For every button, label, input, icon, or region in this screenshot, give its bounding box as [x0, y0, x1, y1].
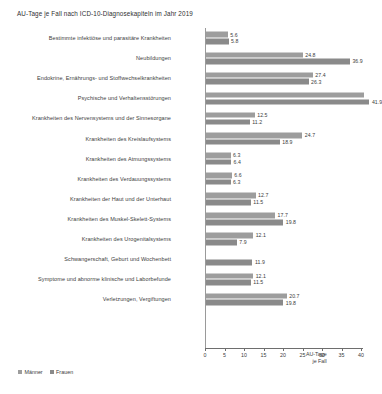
bar-frauen: 6.3 — [206, 179, 371, 185]
bar-group: 20.719.8 — [206, 292, 371, 307]
bar-value-label: 27.4 — [315, 71, 325, 77]
bar-rect — [206, 280, 251, 286]
bar-value-label: 12.1 — [256, 232, 266, 238]
category-label: Krankheiten des Muskel-Skelett-Systems — [68, 216, 171, 222]
bar-rect — [206, 193, 256, 199]
bar-group: 24.836.9 — [206, 51, 371, 66]
category-label: Krankheiten der Haut und der Unterhaut — [70, 196, 171, 202]
x-tick — [303, 348, 304, 351]
legend-swatch-maenner — [18, 370, 22, 374]
bar-maenner: 20.7 — [206, 293, 371, 299]
bar-row: Krankheiten des Atmungssystems6.36.4 — [0, 149, 374, 169]
bar-rect — [206, 112, 255, 118]
bar-rect — [206, 92, 364, 98]
bar-value-label: 19.8 — [286, 219, 296, 225]
bar-group: 11.9 — [206, 252, 371, 267]
bar-rows: Bestimmte infektiöse und parasitäre Kran… — [0, 28, 374, 309]
bar-maenner: 24.8 — [206, 52, 371, 58]
legend-label-frauen: Frauen — [56, 369, 73, 375]
bar-maenner: 12.1 — [206, 273, 371, 279]
bar-rect — [206, 59, 350, 65]
category-label: Krankheiten des Nervensystems und der Si… — [32, 115, 171, 121]
bar-rect — [206, 72, 313, 78]
bar-rect — [206, 240, 237, 246]
bar-maenner: 6.6 — [206, 173, 371, 179]
category-label: Krankheiten des Verdauungssystems — [77, 176, 171, 182]
category-label: Neubildungen — [136, 55, 171, 61]
bar-rect — [206, 199, 251, 205]
category-label: Verletzungen, Vergiftungen — [103, 296, 171, 302]
x-tick — [244, 348, 245, 351]
legend-item-frauen: Frauen — [50, 369, 73, 375]
x-tick — [205, 348, 206, 351]
bar-value-label: 5.8 — [231, 38, 238, 44]
bar-frauen: 11.5 — [206, 199, 371, 205]
bar-frauen: 19.8 — [206, 220, 371, 226]
x-tick-label: 35 — [339, 352, 345, 358]
x-axis-label-line2: je Fall — [306, 358, 327, 365]
legend-label-maenner: Männer — [24, 369, 42, 375]
bar-value-label: 7.9 — [239, 239, 246, 245]
bar-rect — [206, 79, 309, 85]
bar-maenner: 27.4 — [206, 72, 371, 78]
bar-maenner: 12.5 — [206, 112, 371, 118]
bar-rect — [206, 300, 283, 306]
bar-rect — [206, 173, 232, 179]
x-tick-label: 20 — [280, 352, 286, 358]
bar-rect — [206, 159, 231, 165]
plot-area: Bestimmte infektiöse und parasitäre Kran… — [0, 28, 374, 350]
bar-maenner: 6.3 — [206, 153, 371, 159]
bar-row: Neubildungen24.836.9 — [0, 48, 374, 68]
bar-value-label: 24.8 — [305, 51, 315, 57]
bar-row: Krankheiten der Haut und der Unterhaut12… — [0, 189, 374, 209]
x-axis-label: AU-Tage je Fall — [306, 351, 327, 365]
x-tick — [225, 348, 226, 351]
bar-maenner — [206, 92, 371, 98]
category-label: Krankheiten des Urogenitalsystems — [82, 236, 171, 242]
bar-frauen: 7.9 — [206, 240, 371, 246]
bar-row: Psychische und Verhaltensstörungen41.9 — [0, 88, 374, 108]
bar-value-label: 17.7 — [278, 212, 288, 218]
bar-maenner: 5.6 — [206, 32, 371, 38]
legend-item-maenner: Männer — [18, 369, 43, 375]
bar-value-label: 6.3 — [233, 152, 240, 158]
bar-value-label: 12.1 — [256, 272, 266, 278]
bar-group: 12.511.2 — [206, 111, 371, 126]
x-tick — [361, 348, 362, 351]
bar-value-label: 11.9 — [255, 259, 265, 265]
bar-rect — [206, 260, 252, 266]
bar-group: 5.65.8 — [206, 31, 371, 46]
category-label: Schwangerschaft, Geburt und Wochenbett — [64, 256, 171, 262]
x-tick-label: 10 — [241, 352, 247, 358]
bar-rect — [206, 139, 280, 145]
bar-value-label: 11.2 — [252, 118, 262, 124]
bar-value-label: 26.3 — [311, 78, 321, 84]
bar-value-label: 24.7 — [305, 132, 315, 138]
bar-row: Krankheiten des Verdauungssystems6.66.3 — [0, 169, 374, 189]
x-tick-label: 40 — [358, 352, 364, 358]
bar-value-label: 12.5 — [257, 111, 267, 117]
bar-frauen: 11.2 — [206, 119, 371, 125]
x-tick-label: 25 — [300, 352, 306, 358]
bar-value-label: 11.5 — [253, 199, 263, 205]
chart-title: AU-Tage je Fall nach ICD-10-Diagnosekapi… — [17, 10, 193, 17]
bar-value-label: 6.6 — [234, 172, 241, 178]
bar-group: 41.9 — [206, 91, 371, 106]
bar-value-label: 12.7 — [258, 192, 268, 198]
category-label: Psychische und Verhaltensstörungen — [78, 95, 171, 101]
bar-row: Krankheiten des Muskel-Skelett-Systems17… — [0, 209, 374, 229]
bar-group: 12.17.9 — [206, 231, 371, 246]
bar-row: Schwangerschaft, Geburt und Wochenbett11… — [0, 249, 374, 269]
bar-value-label: 11.5 — [253, 279, 263, 285]
x-tick-label: 5 — [223, 352, 226, 358]
bar-row: Bestimmte infektiöse und parasitäre Kran… — [0, 28, 374, 48]
bar-group: 6.66.3 — [206, 171, 371, 186]
legend-swatch-frauen — [50, 370, 54, 374]
bar-frauen: 5.8 — [206, 39, 371, 45]
bar-value-label: 19.8 — [286, 299, 296, 305]
bar-row: Krankheiten des Nervensystems und der Si… — [0, 108, 374, 128]
chart-legend: Männer Frauen — [18, 369, 73, 375]
bar-value-label: 5.6 — [230, 31, 237, 37]
bar-rect — [206, 220, 283, 226]
bar-group: 17.719.8 — [206, 211, 371, 226]
